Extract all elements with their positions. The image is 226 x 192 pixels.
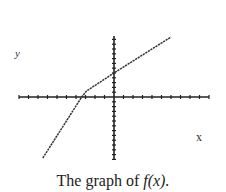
caption-prefix: The graph of (57, 172, 140, 189)
caption-function: f(x). (143, 172, 169, 189)
figure-caption: The graph of f(x). (0, 172, 226, 190)
y-axis-label: y (15, 47, 20, 59)
x-axis-label: x (196, 130, 202, 145)
graph-canvas (0, 0, 226, 192)
